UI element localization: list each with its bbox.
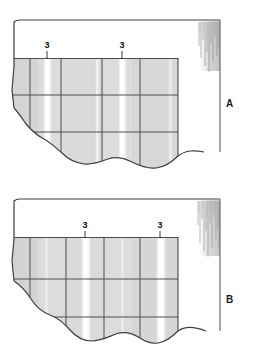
figure-root: 3 3 A	[0, 0, 262, 362]
panel-b-parting-2	[120, 237, 125, 357]
panel-a-callout-1: 3	[44, 40, 49, 50]
panel-b-drawing: 3 3	[0, 181, 262, 362]
panel-a-fracture-zone-1	[43, 58, 52, 176]
panel-a-hatch-zone	[196, 21, 220, 72]
panel-b-fracture-zone-2	[156, 237, 166, 357]
panel-b-hatch-zone	[196, 200, 220, 257]
panel-a-callout-2: 3	[119, 40, 124, 50]
panel-a: 3 3 A	[0, 0, 262, 181]
panel-b-callout-2: 3	[157, 220, 162, 230]
panel-b-label: B	[226, 294, 233, 305]
panel-a-label: A	[226, 98, 233, 109]
panel-a-parting-1	[95, 58, 100, 176]
panel-b-parting-1	[44, 237, 49, 357]
panel-a-drawing: 3 3	[0, 0, 262, 181]
panel-a-rock-mass	[10, 58, 182, 176]
panel-b: 3 3 B	[0, 181, 262, 362]
panel-a-parting-2	[168, 58, 173, 176]
panel-b-rock-mass	[10, 237, 182, 357]
panel-b-callout-1: 3	[82, 220, 87, 230]
